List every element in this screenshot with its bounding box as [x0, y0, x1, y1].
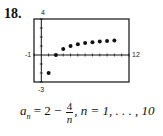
y-min-label: -3: [38, 86, 44, 93]
data-point: [69, 44, 73, 48]
data-point: [47, 71, 51, 75]
data-point: [98, 40, 102, 44]
formula-equals: = 2 −: [31, 103, 65, 118]
data-point: [61, 47, 65, 51]
data-point: [76, 42, 80, 46]
fraction-denominator: n: [66, 113, 74, 125]
x-max-label: 12: [132, 51, 140, 58]
data-point: [105, 39, 109, 43]
data-point: [90, 40, 94, 44]
y-max-label: 4: [41, 9, 45, 16]
data-point: [83, 41, 87, 45]
formula-fraction: 4n: [66, 100, 74, 125]
fraction-numerator: 4: [66, 100, 74, 113]
data-point: [112, 39, 116, 43]
sequence-formula: an = 2 − 4n, n = 1, . . . , 10: [20, 100, 154, 125]
formula-range: , n = 1, . . . , 10: [74, 103, 154, 118]
x-min-label: -1: [25, 51, 31, 58]
data-point: [54, 53, 58, 57]
